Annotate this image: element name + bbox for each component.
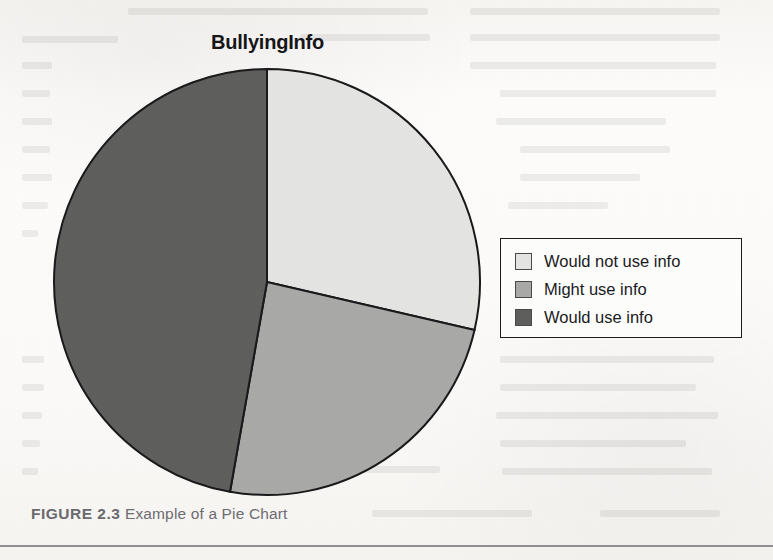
pie-chart-figure: BullyingInfo Would not use info Might us… [0,0,773,502]
legend-swatch-icon-0 [515,253,532,270]
figure-caption-text: Example of a Pie Chart [125,505,288,522]
legend-label-1: Might use info [544,280,647,299]
legend-label-0: Would not use info [544,252,680,271]
legend-swatch-icon-1 [515,281,532,298]
legend-item-might-use-info[interactable]: Might use info [515,276,741,303]
pie-plot-area [0,0,520,502]
pie-slices [54,69,480,495]
bleed-line-30 [600,510,720,517]
figure-caption-label: FIGURE 2.3 [31,505,120,522]
pie-svg [0,0,520,502]
legend-swatch-icon-2 [515,309,532,326]
bleed-line-29 [372,510,532,517]
chart-legend: Would not use info Might use info Would … [500,238,742,338]
legend-item-would-not-use-info[interactable]: Would not use info [515,248,741,275]
page-divider-rule [0,545,773,547]
legend-item-would-use-info[interactable]: Would use info [515,304,741,331]
figure-caption: FIGURE 2.3 Example of a Pie Chart [31,505,288,523]
legend-label-2: Would use info [544,308,653,327]
figure-page: BullyingInfo Would not use info Might us… [0,0,773,560]
pie-slice-2[interactable] [54,69,267,492]
